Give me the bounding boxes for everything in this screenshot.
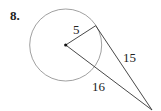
tangent-segment [96, 26, 152, 110]
secant-segment [66, 45, 152, 110]
radius-segment [66, 26, 96, 45]
radius-label: 5 [73, 22, 80, 37]
secant-label: 16 [92, 79, 106, 94]
tangent-label: 15 [123, 50, 136, 65]
circle-tangent-figure: 8. 5 15 16 [0, 0, 161, 111]
center-dot [64, 43, 67, 46]
problem-number: 8. [10, 8, 20, 23]
